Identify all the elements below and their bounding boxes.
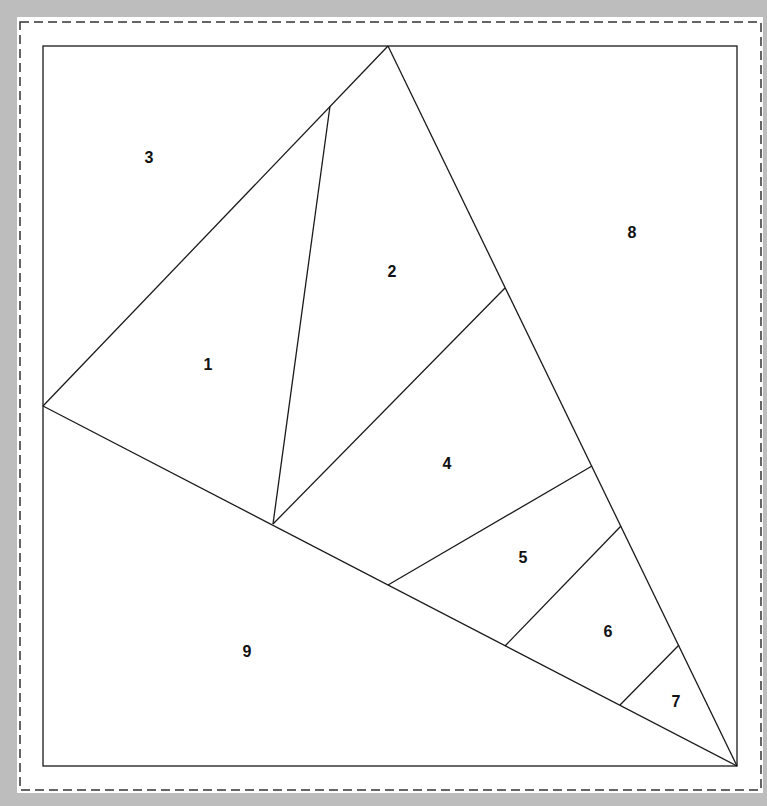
piece-labels: 1 2 3 4 5 6 7 8 9 [145,149,681,710]
seam-line-left-apex [43,46,388,406]
piece-label-9: 9 [243,643,252,660]
seam-line-h-i [620,645,679,705]
piece-label-1: 1 [204,356,213,373]
piece-label-2: 2 [388,263,397,280]
seam-line-c-b [273,288,505,524]
piece-label-7: 7 [672,693,681,710]
piece-label-4: 4 [443,455,452,472]
seam-line-apex-bottom_right [388,46,737,766]
seam-line-a-b [273,106,330,524]
piece-label-8: 8 [628,224,637,241]
piece-label-3: 3 [145,149,154,166]
piece-label-6: 6 [604,623,613,640]
seam-line-left-bottom_right [43,406,737,766]
seam-line-d-e [388,466,592,585]
piece-label-5: 5 [519,549,528,566]
piecing-diagram: 1 2 3 4 5 6 7 8 9 [0,0,767,806]
